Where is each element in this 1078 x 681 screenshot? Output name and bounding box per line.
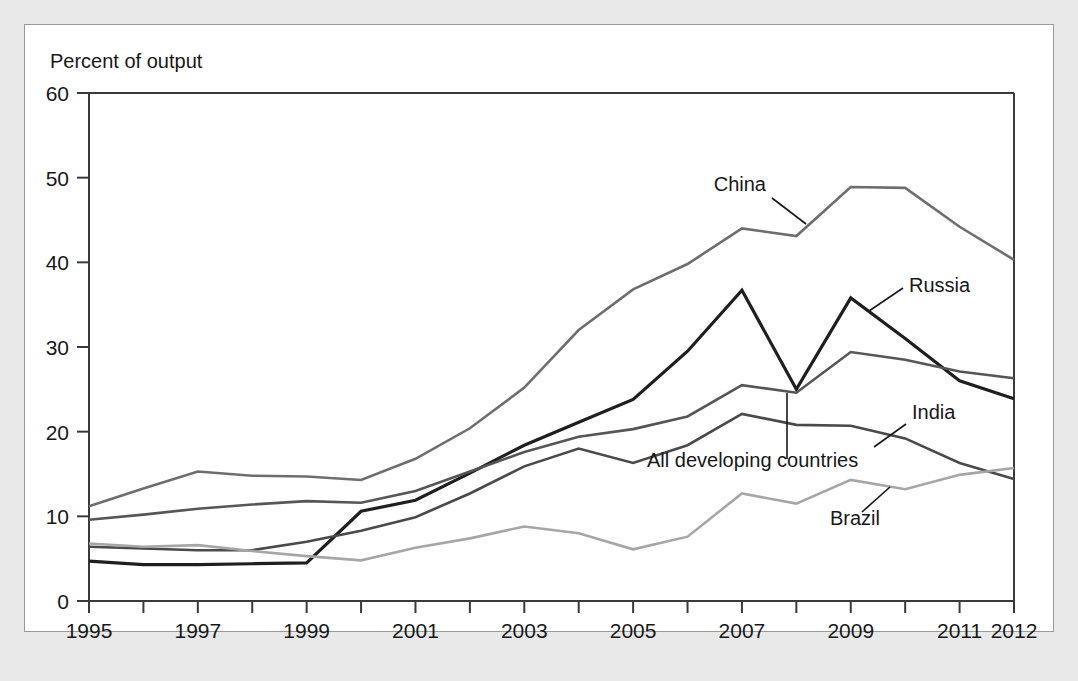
y-tick-label: 30 — [46, 336, 69, 359]
y-tick-label: 40 — [46, 251, 69, 274]
x-tick-label: 2005 — [610, 619, 657, 642]
x-tick-label: 1995 — [66, 619, 113, 642]
series-label-brazil: Brazil — [830, 507, 880, 529]
x-tick-label: 2003 — [501, 619, 548, 642]
y-axis-ticks: 0102030405060 — [46, 82, 89, 613]
series-label-russia: Russia — [909, 274, 971, 296]
leader-line-india — [874, 424, 906, 447]
x-tick-label: 2012 — [991, 619, 1038, 642]
series-label-india: India — [912, 401, 956, 423]
y-tick-label: 20 — [46, 421, 69, 444]
line-chart: Percent of output 0102030405060 19951997… — [0, 0, 1078, 681]
leader-line-china — [772, 198, 806, 224]
y-tick-label: 50 — [46, 167, 69, 190]
x-tick-label: 1999 — [283, 619, 330, 642]
x-tick-label: 2007 — [719, 619, 766, 642]
y-tick-label: 60 — [46, 82, 69, 105]
series-label-china: China — [714, 173, 767, 195]
x-tick-label: 2009 — [827, 619, 874, 642]
y-axis-title-group: Percent of output — [50, 50, 203, 72]
series-label-all-developing-countries: All developing countries — [647, 449, 858, 471]
x-tick-label: 2001 — [392, 619, 439, 642]
y-tick-label: 10 — [46, 505, 69, 528]
x-axis-ticks: 1995199719992001200320052007200920112012 — [66, 601, 1038, 642]
leader-line-russia — [869, 288, 903, 311]
y-axis-title: Percent of output — [50, 50, 203, 72]
figure-container: Percent of output 0102030405060 19951997… — [0, 0, 1078, 681]
x-tick-label: 1997 — [174, 619, 221, 642]
x-tick-label: 2011 — [937, 619, 982, 642]
series-line-all-developing-countries — [89, 352, 1014, 520]
y-tick-label: 0 — [57, 590, 69, 613]
